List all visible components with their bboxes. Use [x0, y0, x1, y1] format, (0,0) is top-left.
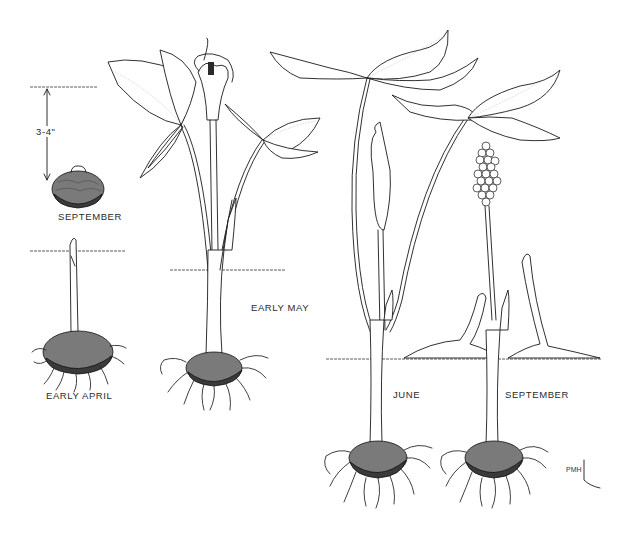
dormant-corm-drawing [30, 87, 104, 208]
artist-signature: PMH [566, 466, 582, 473]
depth-label: 3-4" [35, 126, 57, 137]
botanical-illustration: 3-4" SEPTEMBER EARLY APRIL EARLY MAY JUN… [0, 0, 632, 534]
stage-label-september-corm: SEPTEMBER [58, 211, 122, 222]
stage-label-june: JUNE [393, 389, 420, 400]
flowering-plant-drawing [108, 38, 320, 410]
fruiting-plant-june-drawing [270, 30, 478, 508]
stage-label-early-may: EARLY MAY [251, 302, 309, 313]
fruiting-plant-september-drawing [392, 70, 602, 508]
berry-cluster [473, 142, 501, 206]
stage-label-early-april: EARLY APRIL [46, 390, 112, 401]
stage-label-september-fruit: SEPTEMBER [505, 389, 569, 400]
sprouting-plant-drawing [30, 238, 126, 392]
signature-flourish [584, 460, 600, 488]
